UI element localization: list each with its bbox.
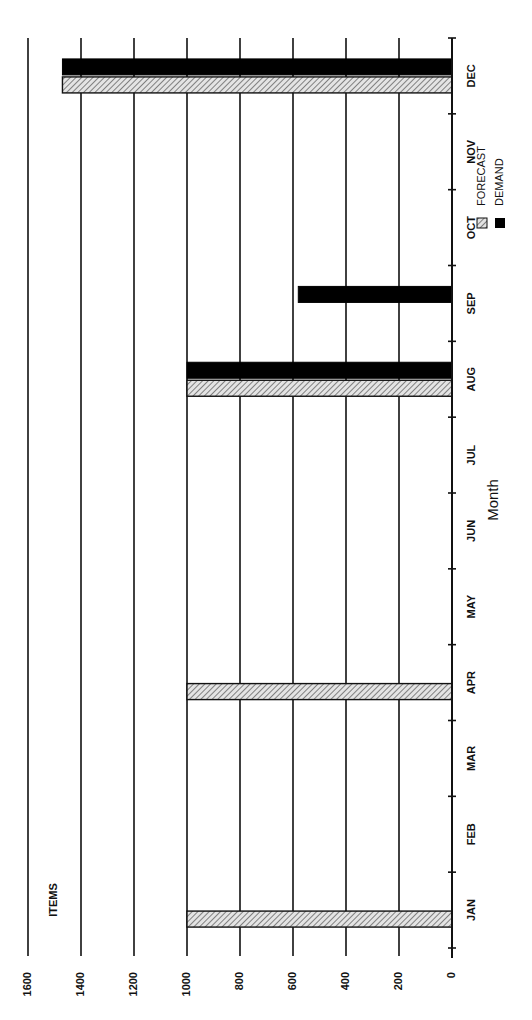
y-axis-title: ITEMS	[47, 883, 59, 917]
forecast-bar	[187, 380, 452, 396]
forecast-demand-chart: JANFEBMARAPRMAYJUNJULAUGSEPOCTNOVDEC 020…	[0, 0, 532, 1020]
forecast-bar	[187, 911, 452, 927]
month-axis: JANFEBMARAPRMAYJUNJULAUGSEPOCTNOVDEC	[448, 38, 477, 958]
value-tick: 1600	[21, 972, 33, 996]
value-tick-labels: 02004006008001000120014001600	[21, 972, 457, 996]
value-tick: 800	[233, 972, 245, 990]
bars	[62, 59, 452, 927]
value-tick: 400	[339, 972, 351, 990]
value-tick: 1000	[180, 972, 192, 996]
value-tick: 1200	[127, 972, 139, 996]
month-label: JUL	[465, 444, 477, 465]
month-label: APR	[465, 671, 477, 694]
month-label: AUG	[465, 367, 477, 391]
legend: FORECASTDEMAND	[475, 146, 505, 228]
legend-demand-label: DEMAND	[493, 158, 505, 206]
month-label: FEB	[465, 823, 477, 845]
legend-forecast-label: FORECAST	[475, 146, 487, 206]
month-label: MAR	[465, 746, 477, 771]
month-label: JAN	[465, 899, 477, 921]
forecast-bar	[187, 684, 452, 700]
month-label: OCT	[465, 216, 477, 240]
demand-swatch	[495, 218, 505, 228]
value-tick: 1400	[74, 972, 86, 996]
month-label: JUN	[465, 520, 477, 542]
demand-bar	[62, 59, 452, 75]
demand-bar	[187, 362, 452, 378]
value-tick: 600	[286, 972, 298, 990]
x-axis-title: Month	[484, 479, 501, 521]
gridlines	[28, 38, 452, 956]
demand-bar	[298, 286, 452, 302]
month-label: DEC	[465, 64, 477, 87]
forecast-swatch	[477, 218, 487, 228]
month-label: SEP	[465, 292, 477, 314]
forecast-bar	[62, 77, 452, 93]
month-label: MAY	[465, 594, 477, 618]
value-tick: 0	[445, 972, 457, 978]
value-tick: 200	[392, 972, 404, 990]
